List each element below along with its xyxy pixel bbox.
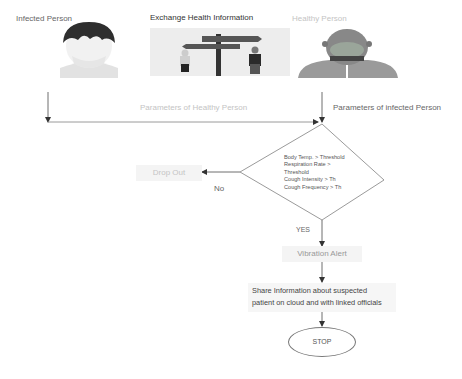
condition-respiration: Respiration Rate > xyxy=(284,161,345,168)
vibration-alert-box: Vibration Alert xyxy=(282,246,362,262)
share-line-2: patient on cloud and with linked officia… xyxy=(252,297,396,309)
infected-person-label: Infected Person xyxy=(16,14,72,23)
exchange-health-label: Exchange Health Information xyxy=(150,13,253,22)
healthy-person-avatar xyxy=(298,29,398,78)
condition-cough-frequency: Cough Frequency > Th xyxy=(284,184,345,191)
condition-respiration-cont: Threshold xyxy=(284,169,345,176)
share-line-1: Share Information about suspected xyxy=(252,285,396,297)
stop-terminal: STOP xyxy=(288,327,356,357)
infected-person-avatar xyxy=(60,22,118,78)
condition-body-temp: Body Temp. > Threshold xyxy=(284,154,345,161)
param-healthy-label: Parameters of Healthy Person xyxy=(140,103,247,112)
share-information-box: Share Information about suspected patien… xyxy=(248,283,396,312)
yes-label: YES xyxy=(296,226,310,233)
drop-out-box: Drop Out xyxy=(136,165,202,181)
healthy-person-label: Healthy Person xyxy=(292,14,347,23)
signpost-exchange-illustration xyxy=(150,28,290,76)
flow-connectors xyxy=(0,0,462,379)
condition-cough-intensity: Cough Intensity > Th xyxy=(284,176,345,183)
param-infected-label: Parameters of infected Person xyxy=(333,103,441,112)
decision-text: Body Temp. > Threshold Respiration Rate … xyxy=(284,154,345,191)
no-label: No xyxy=(214,184,224,193)
